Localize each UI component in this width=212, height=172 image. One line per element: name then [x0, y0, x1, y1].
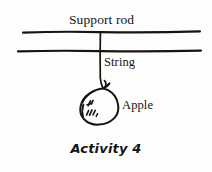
- apple-hatch-3: [87, 111, 89, 115]
- string-label: String: [104, 56, 135, 69]
- apple-hatch-4: [90, 110, 92, 115]
- apple-hatch-5: [93, 110, 95, 115]
- apple-body: [80, 89, 118, 125]
- support-rod-bottom-line: [18, 51, 201, 52]
- activity-figure: Support rod String Apple Activity 4: [0, 0, 212, 172]
- support-rod-label: Support rod: [69, 13, 134, 27]
- support-rod-top-line: [23, 31, 200, 32]
- string-line: [100, 32, 103, 88]
- apple-label: Apple: [122, 99, 153, 112]
- figure-caption: Activity 4: [0, 142, 212, 155]
- apple-inner-arc: [82, 104, 83, 116]
- apple-hatch-6: [96, 114, 97, 117]
